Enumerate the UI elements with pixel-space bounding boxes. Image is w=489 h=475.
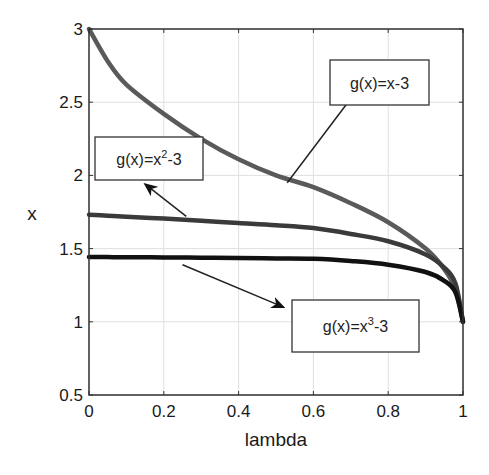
x-tick-label: 0 — [84, 402, 93, 421]
annotation-label: g(x)=x2-3 — [116, 148, 181, 168]
line-chart: 00.20.40.60.810.511.522.53 lambda x g(x)… — [0, 0, 489, 475]
annotation-label: g(x)=x-3 — [350, 75, 409, 92]
y-tick-label: 0.5 — [59, 386, 83, 405]
y-axis-label: x — [27, 203, 37, 224]
annotation-label: g(x)=x3-3 — [323, 315, 388, 335]
y-tick-label: 3 — [74, 20, 83, 39]
y-tick-label: 1.5 — [59, 240, 83, 259]
x-axis-label: lambda — [245, 429, 308, 450]
y-tick-label: 2 — [74, 166, 83, 185]
x-tick-label: 0.6 — [302, 402, 326, 421]
x-tick-label: 0.8 — [376, 402, 400, 421]
y-tick-label: 1 — [74, 313, 83, 332]
x-tick-label: 1 — [458, 402, 467, 421]
x-tick-label: 0.2 — [152, 402, 176, 421]
y-tick-label: 2.5 — [59, 93, 83, 112]
x-tick-label: 0.4 — [227, 402, 251, 421]
